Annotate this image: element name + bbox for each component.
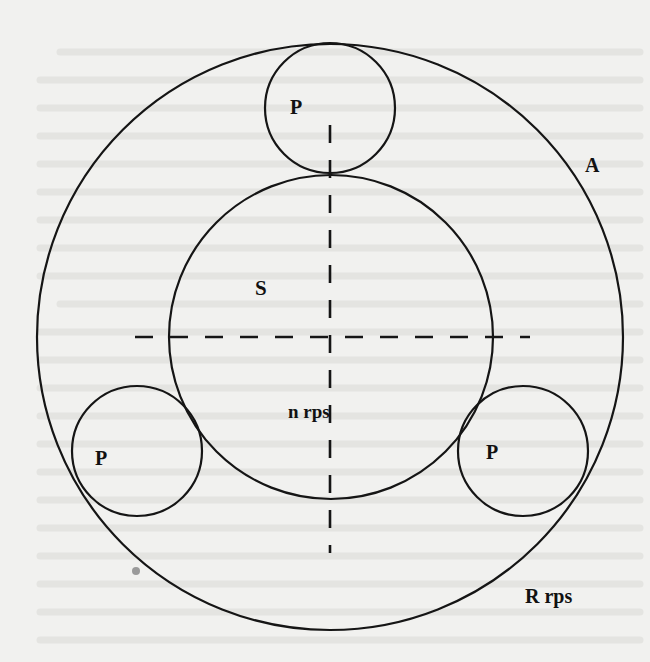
label-sun: S (255, 276, 267, 300)
label-planet-top: P (290, 96, 302, 118)
diagram-canvas: P P P S A n rps R rps (0, 0, 650, 662)
label-arm: A (585, 154, 600, 176)
label-planet-left: P (95, 447, 107, 469)
label-sun-speed: n rps (288, 401, 330, 422)
label-planet-right: P (486, 441, 498, 463)
gear-train-diagram: P P P S A n rps R rps (0, 0, 650, 662)
label-ring-speed: R rps (525, 585, 572, 608)
stray-dot (132, 567, 140, 575)
